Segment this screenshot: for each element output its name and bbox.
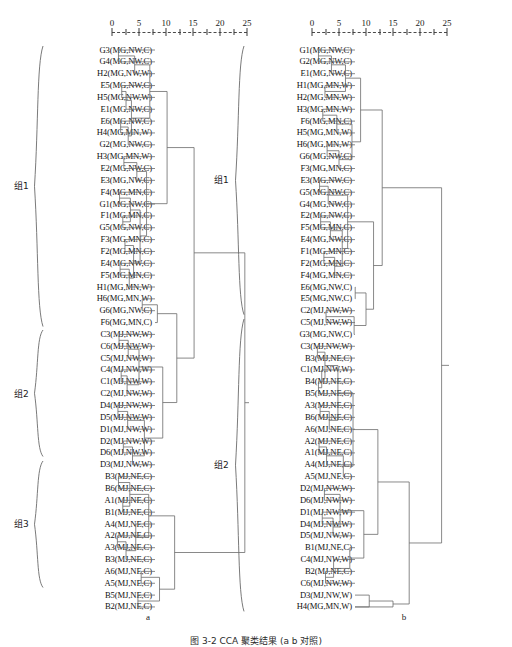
group-label: 组3 <box>14 519 29 529</box>
figure-caption: 图 3-2 CCA 聚类结果 (a b 对照) <box>0 636 512 647</box>
sub-caption-b: b <box>394 612 414 622</box>
group-brace <box>33 45 44 328</box>
panel-b: 0510152025 G1(MG,NW,C)G2(MG,NW,C)E1(MG,N… <box>256 0 512 647</box>
group-brace <box>33 329 44 458</box>
panel-a: 0510152025 G3(MG,NW,C)G4(MG,NW,C)H2(MG,N… <box>0 0 256 647</box>
group-label: 组1 <box>214 175 229 185</box>
group-label: 组1 <box>14 181 29 191</box>
dendrogram-figure: 0510152025 G3(MG,NW,C)G4(MG,NW,C)H2(MG,N… <box>0 0 512 647</box>
group-brace <box>234 318 245 612</box>
group-label: 组2 <box>14 389 29 399</box>
dendrogram-tree-b <box>256 0 512 647</box>
sub-caption-a: a <box>138 612 158 622</box>
group-label: 组2 <box>214 460 229 470</box>
group-brace <box>33 460 44 589</box>
group-brace <box>234 45 245 316</box>
